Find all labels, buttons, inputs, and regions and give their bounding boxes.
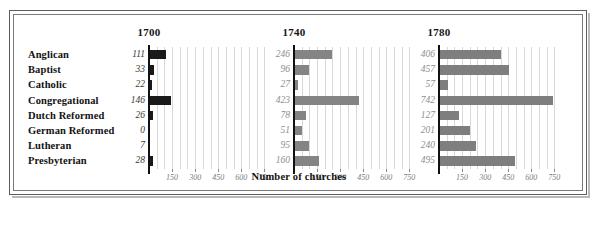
x-axis-label: Number of churches [10,171,588,182]
panel-plot: 150300450600750 [439,47,562,169]
bar [439,126,470,135]
bar-value-label: 495 [393,153,435,168]
bar-value-label: 240 [393,138,435,153]
bar-row [439,62,562,77]
bar-value-label: 457 [393,62,435,77]
bar [439,65,509,74]
panel-1780: 1780406457577421272012404951503004506007… [10,11,588,196]
bar [439,50,501,59]
figure-frame: AnglicanBaptistCatholicCongregationalDut… [9,10,587,195]
bar-value-label: 742 [393,93,435,108]
bar [439,96,553,105]
bar-value-label: 57 [393,77,435,92]
bar-row [439,93,562,108]
bar-row [439,138,562,153]
bar-value-label: 127 [393,108,435,123]
bar-row [439,123,562,138]
bar-row [439,153,562,168]
panel-value-labels: 40645757742127201240495 [393,47,435,169]
bar-value-label: 201 [393,123,435,138]
panel-title: 1780 [391,26,487,38]
bar [439,156,515,165]
bar [439,111,459,120]
bar-row [439,77,562,92]
bar-row [439,47,562,62]
bar [439,80,448,89]
frame-shadow-bottom [12,196,590,198]
bar-row [439,108,562,123]
axis-baseline [438,45,440,174]
frame-shadow-right [588,13,590,198]
bar [439,141,476,150]
chart-plot-area: AnglicanBaptistCatholicCongregationalDut… [10,11,588,196]
bar-value-label: 406 [393,47,435,62]
